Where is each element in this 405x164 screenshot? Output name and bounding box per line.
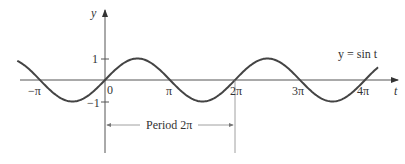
y-axis-label: y: [90, 6, 97, 20]
origin-label: 0: [107, 83, 113, 97]
period-label: Period 2π: [146, 118, 192, 132]
tick-3pi: 3π: [292, 84, 304, 98]
sine-graph: y t 0 −π π 2π 3π 4π 1 −1 y = sin t Perio…: [0, 0, 405, 164]
tick-4pi: 4π: [357, 84, 369, 98]
tick-neg-one: −1: [87, 96, 100, 110]
curve-label: y = sin t: [338, 47, 378, 61]
tick-pi: π: [166, 84, 172, 98]
t-axis-label: t: [394, 84, 398, 98]
tick-neg-pi: −π: [28, 84, 41, 98]
tick-2pi: 2π: [230, 84, 242, 98]
tick-one: 1: [92, 52, 98, 66]
